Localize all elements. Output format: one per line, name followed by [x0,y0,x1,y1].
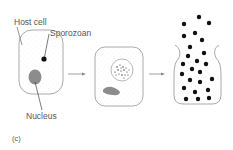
stage-2-multiplying [95,47,143,106]
nucleus-label: Nucleus [26,112,57,121]
panel-label: (c) [12,135,21,143]
arrow-2 [149,73,165,76]
sporozoan-label: Sporozoan [50,29,91,38]
host-cell-label: Host cell [14,18,47,27]
host-cell-membrane [19,30,63,94]
stage-1-host-cell [17,27,63,110]
arrow-1 [68,73,86,76]
sporozoan-dot [41,56,46,61]
parasitophorous-vacuole [111,59,133,81]
stage-3-ruptured-cell [174,15,221,104]
